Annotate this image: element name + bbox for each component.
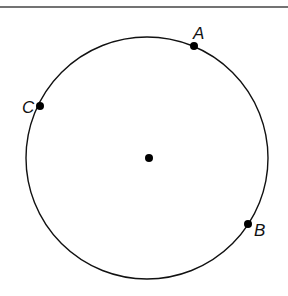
point-c <box>36 102 44 110</box>
point-a <box>190 42 198 50</box>
point-b <box>244 220 252 228</box>
label-a: A <box>192 24 204 43</box>
label-b: B <box>254 221 265 240</box>
label-c: C <box>22 98 35 117</box>
circle-diagram: A B C <box>0 0 288 296</box>
center-point <box>145 154 153 162</box>
